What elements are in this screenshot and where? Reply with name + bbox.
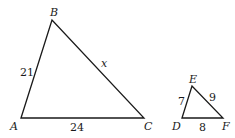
vertex-label-f: F: [221, 120, 230, 133]
side-label-ab: 21: [20, 66, 34, 79]
side-label-ef: 9: [209, 91, 216, 104]
triangle-def: [182, 86, 223, 118]
vertex-label-e: E: [188, 73, 197, 86]
triangle-abc: [21, 20, 144, 118]
similar-triangles-diagram: B A C 21 24 x E D F 7 8 9: [0, 0, 235, 138]
side-label-bc: x: [101, 57, 108, 70]
vertex-label-c: C: [144, 120, 153, 133]
side-label-ac: 24: [70, 121, 84, 134]
vertex-label-a: A: [9, 120, 18, 133]
vertex-label-d: D: [171, 120, 181, 133]
side-label-df: 8: [199, 121, 206, 134]
side-label-de: 7: [178, 95, 185, 108]
vertex-label-b: B: [49, 6, 58, 19]
